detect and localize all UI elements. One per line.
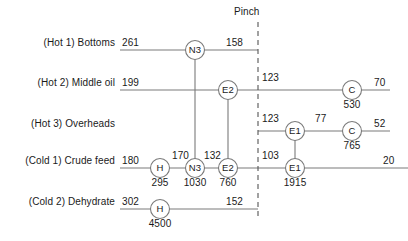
inlet-temp-cold1: 180	[122, 155, 139, 166]
pinch-label: Pinch	[234, 6, 260, 17]
unit-label-e1-cold1: E1	[281, 162, 309, 173]
outlet-temp-hot1: 158	[226, 37, 243, 48]
mid-temp-cold1-after-h: 170	[172, 150, 189, 161]
unit-label-c-hot2: C	[338, 84, 366, 95]
mid-temp-hot3-pinch: 123	[262, 113, 279, 124]
stream-label-hot2: (Hot 2) Middle oil	[0, 77, 115, 88]
outlet-temp-hot2: 70	[374, 77, 385, 88]
unit-duty-c-hot3: 765	[336, 140, 368, 151]
unit-duty-n3-cold1: 1030	[179, 177, 211, 188]
stream-label-hot3: (Hot 3) Overheads	[0, 118, 115, 129]
unit-label-n3-cold1: N3	[181, 162, 209, 173]
mid-temp-cold1-pinch: 103	[262, 150, 279, 161]
unit-label-n3-hot1: N3	[181, 44, 209, 55]
outlet-temp-cold2: 152	[226, 196, 243, 207]
grid-diagram-canvas: (Hot 1) Bottoms(Hot 2) Middle oil(Hot 3)…	[0, 0, 408, 241]
mid-temp-hot2-pinch: 123	[262, 72, 279, 83]
stream-label-hot1: (Hot 1) Bottoms	[0, 37, 115, 48]
unit-label-e1-hot3: E1	[281, 125, 309, 136]
inlet-temp-hot2: 199	[122, 77, 139, 88]
inlet-temp-hot1: 261	[122, 37, 139, 48]
outlet-temp-hot3: 52	[374, 118, 385, 129]
unit-duty-e1-cold1: 1915	[279, 177, 311, 188]
outlet-temp-cold1: 20	[383, 155, 394, 166]
stream-label-cold2: (Cold 2) Dehydrate	[0, 196, 115, 207]
unit-label-e2-hot2: E2	[214, 84, 242, 95]
inlet-temp-cold2: 302	[122, 196, 139, 207]
stream-label-cold1: (Cold 1) Crude feed	[0, 155, 115, 166]
unit-duty-h-cold1: 295	[144, 177, 176, 188]
unit-label-h-cold2: H	[146, 203, 174, 214]
unit-duty-e2-cold1: 760	[212, 177, 244, 188]
mid-temp-cold1-after-n3: 132	[204, 150, 221, 161]
unit-duty-c-hot2: 530	[336, 99, 368, 110]
unit-label-e2-cold1: E2	[214, 162, 242, 173]
mid-temp-hot3-after-e1: 77	[315, 113, 326, 124]
unit-duty-h-cold2: 4500	[144, 218, 176, 229]
unit-label-c-hot3: C	[338, 125, 366, 136]
unit-label-h-cold1: H	[146, 162, 174, 173]
unit-circles-group	[151, 41, 362, 219]
